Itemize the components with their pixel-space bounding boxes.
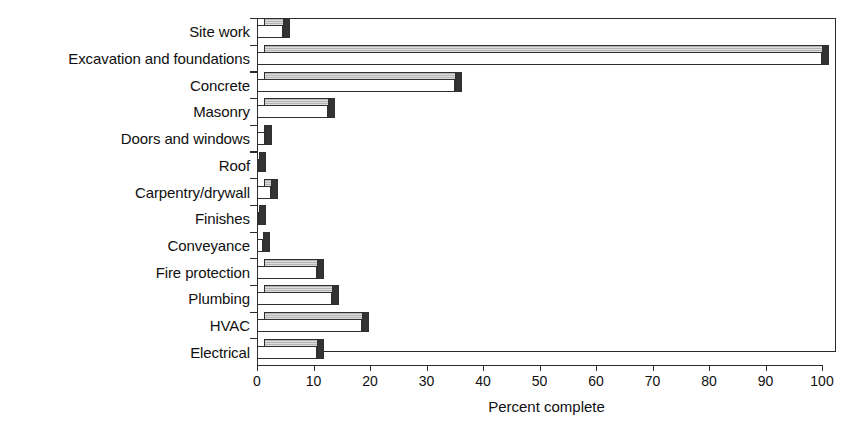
value-tick-label: 40 [463, 373, 503, 389]
category-label: Excavation and foundations [0, 51, 250, 66]
category-label: Roof [0, 158, 250, 173]
bar-front-face [257, 186, 271, 199]
category-label: Masonry [0, 104, 250, 119]
value-tick [314, 365, 315, 371]
bar-end-cap [259, 152, 266, 172]
bar-top-face [264, 98, 335, 105]
value-tick [540, 365, 541, 371]
bar-front-face [257, 79, 455, 92]
value-tick-label: 80 [689, 373, 729, 389]
category-label: Doors and windows [0, 131, 250, 146]
bar-front-face [257, 25, 283, 38]
value-tick [653, 365, 654, 371]
value-tick-label: 100 [802, 373, 842, 389]
value-tick [370, 365, 371, 371]
bar-end-cap [455, 72, 462, 92]
value-tick-label: 50 [520, 373, 560, 389]
category-axis-labels: Site workExcavation and foundationsConcr… [0, 0, 250, 440]
value-tick-label: 10 [294, 373, 334, 389]
bar-end-cap [822, 45, 829, 65]
value-tick-label: 60 [576, 373, 616, 389]
bar-top-face [264, 45, 829, 52]
value-tick-label: 90 [746, 373, 786, 389]
bar-end-cap [332, 285, 339, 305]
bar-top-face [264, 285, 339, 292]
value-tick [766, 365, 767, 371]
value-tick [427, 365, 428, 371]
value-tick [257, 365, 258, 371]
x-axis-title: Percent complete [257, 398, 836, 415]
category-label: Electrical [0, 345, 250, 360]
bar-end-cap [263, 232, 270, 252]
bar-front-face [257, 319, 362, 332]
value-tick [483, 365, 484, 371]
bar-end-cap [317, 259, 324, 279]
category-label: Concrete [0, 78, 250, 93]
value-tick [596, 365, 597, 371]
bar-end-cap [317, 339, 324, 359]
category-label: Plumbing [0, 291, 250, 306]
category-label: HVAC [0, 318, 250, 333]
bar-front-face [257, 52, 822, 65]
value-tick-label: 30 [407, 373, 447, 389]
bar-front-face [257, 346, 317, 359]
value-tick [709, 365, 710, 371]
bar-end-cap [271, 179, 278, 199]
bar-top-face [264, 312, 369, 319]
bar-top-face [264, 339, 324, 346]
bar-end-cap [362, 312, 369, 332]
bar-end-cap [265, 125, 272, 145]
bar-front-face [257, 105, 328, 118]
bar-end-cap [259, 205, 266, 225]
bar-front-face [257, 266, 317, 279]
bar-end-cap [328, 98, 335, 118]
category-label: Carpentry/drywall [0, 185, 250, 200]
category-label: Fire protection [0, 265, 250, 280]
plot-frame [257, 18, 836, 352]
bar-top-face [264, 72, 462, 79]
bar-top-face [264, 259, 324, 266]
value-tick-label: 0 [237, 373, 277, 389]
value-tick-label: 70 [633, 373, 673, 389]
category-label: Finishes [0, 211, 250, 226]
percent-complete-bar-chart: Site workExcavation and foundationsConcr… [0, 0, 856, 440]
category-label: Conveyance [0, 238, 250, 253]
value-tick [822, 365, 823, 371]
value-tick-label: 20 [350, 373, 390, 389]
bar-front-face [257, 132, 265, 145]
bar-end-cap [283, 18, 290, 38]
category-label: Site work [0, 24, 250, 39]
bar-front-face [257, 292, 332, 305]
